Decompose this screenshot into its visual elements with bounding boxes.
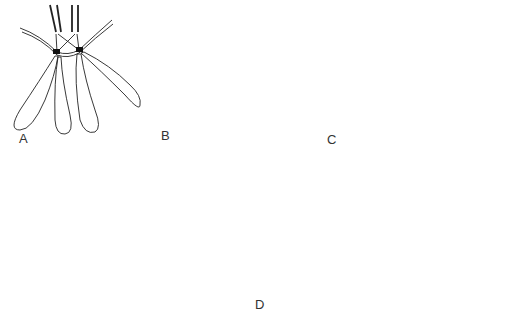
meiosis-diagram [0, 0, 517, 331]
panel-label-c: C [327, 132, 336, 147]
panel-a [14, 5, 140, 134]
panel-label-b: B [161, 128, 170, 143]
panel-label-d: D [255, 297, 264, 312]
panel-label-a: A [19, 131, 28, 146]
